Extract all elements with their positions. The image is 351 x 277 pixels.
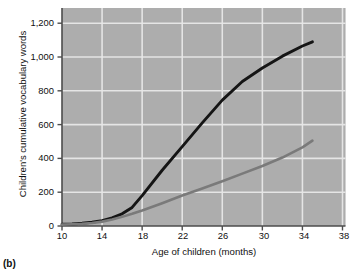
figure-panel-b: Children's cumulative vocabulary words 0… [0,0,351,277]
chart-plot-area [0,0,351,277]
